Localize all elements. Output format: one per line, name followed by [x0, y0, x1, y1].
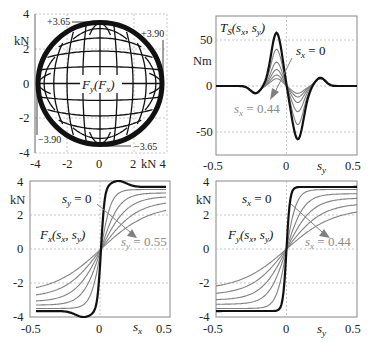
y-tick: 4	[23, 7, 30, 21]
x-tick: 0.5	[345, 322, 361, 336]
y-tick: 4	[203, 175, 210, 189]
x-tick: -2	[62, 157, 72, 171]
y-unit-label: Nm	[193, 54, 212, 68]
annotation-fx-max: +3.90	[141, 28, 164, 39]
annotation-sx-044: sx = 0.44	[305, 234, 351, 251]
panel-lateral-force: sx = 0 Fy(sx, sy) sx = 0.44 4 kN 2 0 -2 …	[196, 175, 361, 338]
figure: +3.65 +3.90 −3.90 −3.65 Fy(Fx) 4 kN 2 0 …	[0, 0, 376, 343]
annotation-sy-0: sy = 0	[62, 191, 91, 208]
y-unit-label: kN	[196, 193, 211, 207]
y-unit-label: kN	[10, 193, 25, 207]
annotation-sx-0: sx = 0	[296, 43, 325, 60]
x-tick: 0.5	[156, 322, 172, 336]
x-tick: -4	[30, 157, 41, 171]
annotation-sx-0: sx = 0	[242, 191, 271, 208]
x-tick: -0.5	[203, 322, 223, 336]
annotation-sx-044: sx = 0.44	[234, 101, 280, 118]
x-axis-label: sy	[317, 321, 326, 338]
y-tick: -50	[196, 125, 213, 139]
x-tick: 0	[283, 322, 289, 336]
x-tick: 0.5	[345, 159, 361, 173]
x-tick: -0.5	[21, 322, 41, 336]
x-tick: -0.5	[203, 159, 223, 173]
annotation-sy-055: sy = 0.55	[121, 234, 167, 251]
x-axis-label: sx	[133, 319, 142, 336]
y-tick: 2	[203, 208, 209, 222]
x-tick: 0	[283, 159, 289, 173]
y-tick: 2	[17, 208, 23, 222]
y-tick: 2	[23, 42, 29, 56]
y-tick: -2	[19, 111, 29, 125]
chart-title: Fx(sx, sy)	[39, 227, 85, 244]
annotation-fy-max: +3.65	[47, 16, 70, 27]
panel-longitudinal-force: sy = 0 Fx(sx, sy) sy = 0.55 4 kN 2 0 -2 …	[10, 175, 172, 336]
x-tick: 2	[130, 157, 136, 171]
y-tick: -2	[199, 276, 209, 290]
y-tick: 0	[17, 242, 23, 256]
x-unit-label: kN 4	[141, 157, 166, 171]
chart-title: Fy(sx, sy)	[227, 227, 273, 244]
y-tick: -2	[13, 276, 23, 290]
annotation-fx-min: −3.90	[38, 134, 61, 145]
y-tick: 0	[203, 242, 209, 256]
chart-title: TS(sx, sy)	[220, 20, 265, 37]
x-axis-label: sy	[317, 158, 326, 175]
y-tick: 0	[206, 79, 212, 93]
chart-title: Fy(Fx)	[81, 77, 115, 94]
y-tick: 0	[23, 77, 29, 91]
x-tick: 0	[96, 157, 102, 171]
panel-self-aligning-torque: TS(sx, sy) sx = 0 sx = 0.44 50 Nm 0 -50 …	[193, 16, 361, 175]
x-tick: 0	[96, 322, 102, 336]
y-tick: 4	[17, 175, 24, 189]
annotation-fy-min: −3.65	[134, 141, 157, 152]
panel-friction-ellipse: +3.65 +3.90 −3.90 −3.65 Fy(Fx) 4 kN 2 0 …	[14, 7, 167, 171]
y-tick: 50	[200, 33, 213, 47]
y-tick: -4	[19, 146, 30, 160]
